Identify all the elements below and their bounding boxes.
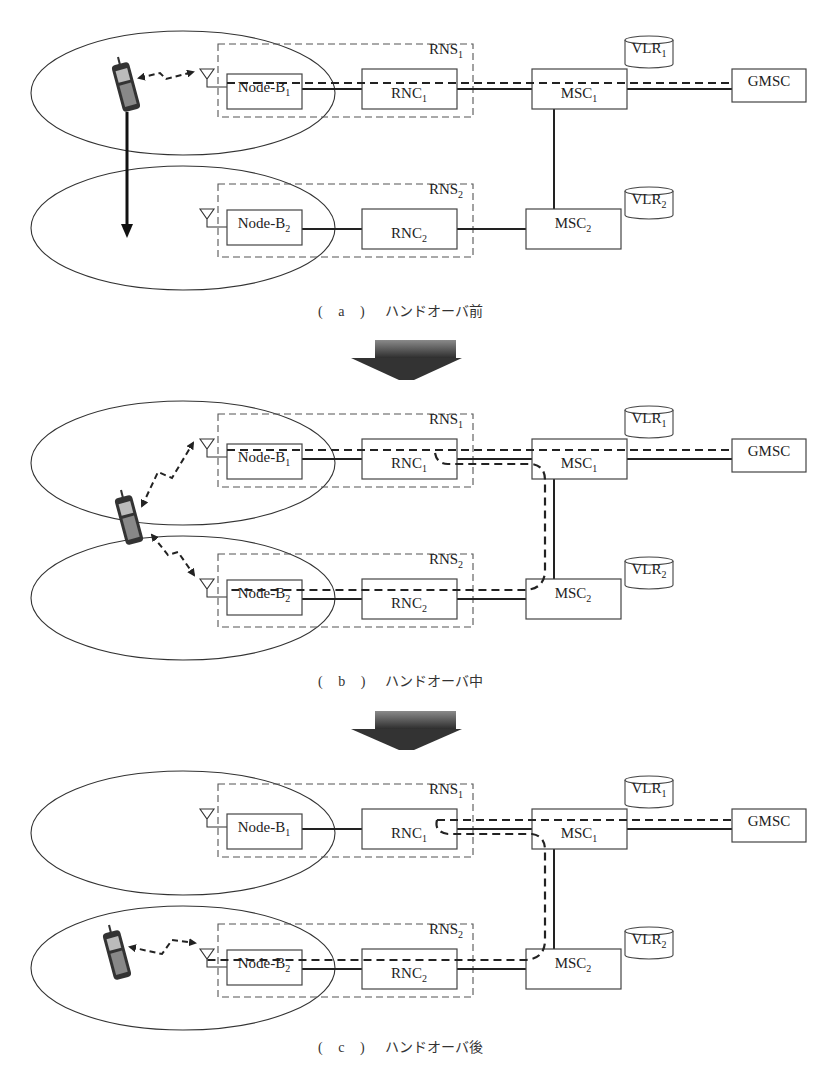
label-node-b2: Node-B2 (238, 215, 291, 234)
mobile-phone-icon (111, 57, 141, 113)
mobile-phone-icon (114, 490, 144, 546)
radio-link-icon (139, 72, 193, 79)
label-vlr1: VLR1 (632, 780, 667, 799)
label-rns2: RNS2 (429, 551, 463, 570)
label-vlr1: VLR1 (632, 40, 667, 59)
label-msc2: MSC2 (555, 955, 592, 974)
radio-link-node-b2-icon (130, 940, 195, 954)
label-rns1: RNS1 (429, 411, 463, 430)
label-vlr2: VLR2 (632, 191, 667, 210)
label-rnc1: RNC1 (391, 455, 427, 474)
label-rnc2: RNC2 (391, 965, 427, 984)
label-rns2: RNS2 (429, 921, 463, 940)
transition-arrow-1-icon (351, 340, 462, 380)
label-rnc2: RNC2 (391, 225, 427, 244)
radio-link-node-b1-icon (142, 443, 193, 506)
label-rns2: RNS2 (429, 181, 463, 200)
caption-tag: ( a ) (318, 304, 371, 319)
caption-b: ( b )ハンドオーバ中 (318, 670, 483, 690)
panel-a (31, 31, 806, 290)
label-node-b2: Node-B2 (238, 585, 291, 604)
mobile-phone-icon (102, 925, 132, 981)
handover-diagram (0, 0, 831, 1086)
label-node-b1: Node-B1 (238, 819, 291, 838)
label-msc1: MSC1 (561, 455, 598, 474)
label-rnc2: RNC2 (391, 595, 427, 614)
radio-link-node-b2-icon (152, 535, 194, 575)
label-node-b1: Node-B1 (238, 449, 291, 468)
caption-c: ( c )ハンドオーバ後 (318, 1036, 483, 1056)
label-gmsc: GMSC (748, 443, 791, 460)
caption-text: ハンドオーバ前 (385, 303, 483, 319)
transition-arrow-2-icon (351, 711, 462, 750)
label-node-b1: Node-B1 (238, 79, 291, 98)
caption-tag: ( b ) (318, 674, 371, 689)
panel-c (31, 771, 806, 1030)
label-gmsc: GMSC (748, 813, 791, 830)
label-rns1: RNS1 (429, 781, 463, 800)
caption-a: ( a )ハンドオーバ前 (318, 300, 483, 320)
label-vlr1: VLR1 (632, 410, 667, 429)
label-gmsc: GMSC (748, 73, 791, 90)
label-rnc1: RNC1 (391, 825, 427, 844)
caption-tag: ( c ) (318, 1040, 371, 1055)
label-node-b2: Node-B2 (238, 955, 291, 974)
label-msc1: MSC1 (561, 825, 598, 844)
caption-text: ハンドオーバ後 (385, 1039, 483, 1055)
label-vlr2: VLR2 (632, 561, 667, 580)
panel-b (31, 401, 806, 660)
label-msc1: MSC1 (561, 85, 598, 104)
label-vlr2: VLR2 (632, 931, 667, 950)
label-rnc1: RNC1 (391, 85, 427, 104)
label-rns1: RNS1 (429, 41, 463, 60)
label-msc2: MSC2 (555, 585, 592, 604)
caption-text: ハンドオーバ中 (385, 673, 483, 689)
label-msc2: MSC2 (555, 215, 592, 234)
